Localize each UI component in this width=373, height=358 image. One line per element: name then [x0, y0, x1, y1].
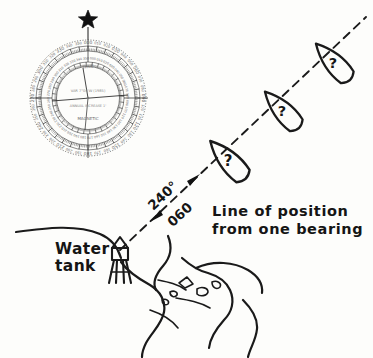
- annotation-line-2: from one bearing: [212, 221, 363, 237]
- compass-tick-label-190: 190: [74, 150, 82, 155]
- compass-tick-label-030: 030: [111, 46, 121, 55]
- compass-magnetic-tick-label-340: 340: [76, 57, 83, 62]
- vessel-near-mark: ?: [224, 152, 233, 170]
- compass-outer-ring-label: TRUE: [81, 63, 94, 70]
- figure-canvas: 0100100200200300300400400500500600600700…: [0, 0, 373, 358]
- vessel-far: ?: [309, 37, 357, 87]
- vessel-middle: ?: [258, 85, 306, 135]
- compass-tick-label-150: 150: [111, 142, 121, 151]
- water-tank-label-line1: Water: [55, 240, 110, 258]
- compass-tick-label-010: 010: [94, 41, 102, 46]
- compass-tick-label-320: 320: [49, 52, 57, 60]
- compass-tick-label-260: 260: [31, 103, 36, 111]
- annotation-line-1: Line of position: [212, 203, 348, 219]
- compass-tick-label-230: 230: [42, 129, 50, 137]
- compass-tick-label-210: 210: [55, 142, 65, 151]
- annotation-block: Line of position from one bearing: [212, 203, 363, 237]
- compass-magnetic-tick-label-160: 160: [93, 134, 100, 139]
- compass-tick-label-170: 170: [93, 150, 101, 155]
- compass-variation-line1: VAR 7°00'W (1985): [71, 89, 106, 93]
- compass-magnetic-tick-label-250: 250: [47, 103, 52, 110]
- vessel-far-mark: ?: [329, 55, 337, 71]
- compass-tick-label-280: 280: [31, 84, 36, 92]
- compass-tick-label-120: 120: [132, 121, 141, 131]
- compass-inner-ring-label: MAGNETIC: [77, 116, 98, 121]
- compass-magnetic-tick-label-070: 070: [124, 86, 129, 93]
- coastline-and-estuary: [16, 228, 262, 357]
- compass-rose: 0100100200200300300400400500500600600700…: [30, 10, 148, 158]
- compass-tick-label-080: 080: [140, 85, 145, 93]
- compass-tick-label-060: 060: [132, 65, 141, 75]
- compass-tick-label-350: 350: [75, 41, 83, 46]
- compass-tick-label-050: 050: [127, 59, 135, 67]
- north-star-icon: [78, 10, 97, 40]
- water-tank-label-line2: tank: [55, 257, 96, 275]
- compass-tick-label-240: 240: [36, 121, 45, 131]
- vessel-middle-mark: ?: [278, 103, 286, 119]
- compass-magnetic-tick-label-090: 090: [125, 100, 130, 107]
- compass-variation-line2: ANNUAL INCREASE 1': [70, 104, 106, 108]
- water-tank-label: Water tank: [55, 240, 110, 275]
- compass-magnetic-tick-label-270: 270: [46, 90, 51, 97]
- compass-magnetic-tick-label-180: 180: [80, 135, 87, 140]
- compass-tick-label-300: 300: [36, 65, 45, 75]
- compass-tick-label-330: 330: [55, 46, 65, 55]
- compass-tick-label-140: 140: [119, 137, 127, 145]
- compass-magnetic-tick-label-000: 000: [90, 56, 97, 61]
- vessel-near: ?: [203, 134, 253, 186]
- bearing-arrow-forward: [187, 174, 200, 186]
- compass-tick-label-100: 100: [140, 104, 145, 112]
- bearing-reciprocal-label: 060: [164, 199, 196, 230]
